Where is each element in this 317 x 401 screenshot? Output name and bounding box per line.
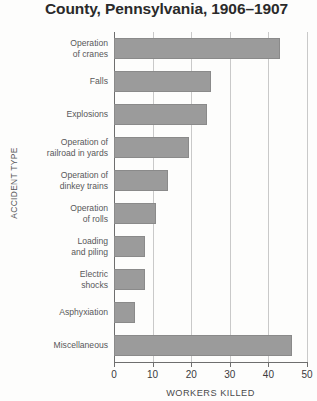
gridline-50 [307,32,308,362]
category-label: Falls [4,76,108,87]
bar-row [114,335,307,356]
category-label: Operation of rolls [4,203,108,224]
tick-mark-50 [307,362,308,367]
x-axis-title: WORKERS KILLED [114,388,307,398]
category-label: Loading and piling [4,236,108,257]
x-tick-label: 50 [292,369,317,380]
x-axis-line [114,362,307,363]
bar [114,170,168,191]
bar [114,335,292,356]
bar-row [114,269,307,290]
x-tick-label: 10 [138,369,168,380]
category-label: Operation of cranes [4,38,108,59]
category-label: Miscellaneous [4,340,108,351]
bar-row [114,170,307,191]
category-labels: Operation of cranesFallsExplosionsOperat… [0,32,108,362]
bar [114,38,280,59]
bar [114,302,135,323]
bar-row [114,203,307,224]
bar-row [114,38,307,59]
category-label: Explosions [4,109,108,120]
bar [114,269,145,290]
x-tick-label: 0 [99,369,129,380]
bar-row [114,236,307,257]
bar-row [114,302,307,323]
bar [114,203,156,224]
category-label: Operation of railroad in yards [4,137,108,158]
tick-mark-40 [268,362,269,367]
category-label: Operation of dinkey trains [4,170,108,191]
x-tick-label: 20 [176,369,206,380]
x-tick-label: 40 [253,369,283,380]
tick-mark-10 [153,362,154,367]
category-label: Asphyxiation [4,307,108,318]
bar [114,236,145,257]
bar-row [114,137,307,158]
bar-row [114,71,307,92]
bar [114,137,189,158]
tick-mark-20 [191,362,192,367]
bar [114,71,211,92]
tick-mark-30 [230,362,231,367]
bar [114,104,207,125]
category-label: Electric shocks [4,269,108,290]
plot-area [114,32,307,362]
bar-chart-figure: County, Pennsylvania, 1906–1907 ACCIDENT… [0,0,317,401]
bar-row [114,104,307,125]
chart-title: County, Pennsylvania, 1906–1907 [0,0,317,18]
tick-mark-0 [114,362,115,367]
x-tick-label: 30 [215,369,245,380]
